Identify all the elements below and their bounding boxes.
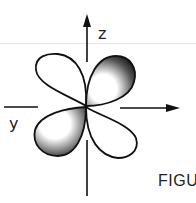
z-axis-label: z xyxy=(98,24,106,43)
lobe-upper-right xyxy=(86,56,135,106)
axes xyxy=(4,18,172,196)
lobe-lower-left xyxy=(34,107,86,156)
y-axis-label: y xyxy=(9,114,18,133)
y-arrowhead-icon xyxy=(166,104,180,112)
lobe-lower-right xyxy=(86,107,137,158)
z-arrowhead-icon xyxy=(83,14,91,27)
figure-caption: FIGU xyxy=(158,172,196,190)
lobe-upper-left xyxy=(36,54,86,106)
